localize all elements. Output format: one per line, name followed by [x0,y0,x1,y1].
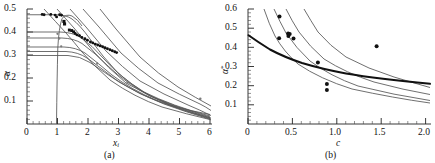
y-axis-label-b-sup: * [219,66,227,70]
y-axis-label-b-text: α [220,69,230,74]
y-tick-b-5: 0.6 [225,4,237,14]
y-tick-b-4: 0.5 [225,23,237,33]
panel-caption-a: (a) [104,151,115,161]
x-axis-label-b: c [336,139,340,149]
y-axis-label-a-text: α [2,71,12,76]
bold-curve-b [249,35,431,84]
panel-b-plot [218,0,435,163]
y-tick-a-2: 0.3 [4,50,16,60]
x-major-ticks-a [27,118,210,124]
y-axis-label-a: α [3,71,13,76]
figure-container: 0.1 0.2 0.3 0.4 0.5 0 1 2 3 4 5 6 α xi (… [0,0,435,163]
x-tick-a-0: 0 [24,128,29,138]
y-tick-b-0: 0.1 [225,100,237,110]
y-axis-label-b: α* [220,66,230,75]
x-tick-a-3: 3 [116,128,121,138]
panel-caption-b: (b) [325,151,336,161]
x-tick-a-6: 6 [207,128,212,138]
x-tick-a-1: 1 [55,128,60,138]
thin-curves-b [264,9,430,103]
x-axis-label-a: xi [113,139,119,149]
panel-a-plot [0,0,217,163]
x-tick-b-3: 1.5 [374,128,386,138]
y-tick-a-4: 0.5 [4,4,16,14]
x-tick-a-2: 2 [85,128,90,138]
x-tick-a-4: 4 [146,128,151,138]
x-tick-b-1: 0.5 [285,128,297,138]
y-tick-b-1: 0.2 [225,81,237,91]
x-axis-label-a-sub: i [117,141,119,148]
y-tick-a-3: 0.4 [4,27,16,37]
x-axis-label-b-text: c [336,138,340,148]
rising-branches-a [44,9,211,120]
y-tick-a-0: 0.1 [4,96,16,106]
x-tick-b-2: 1.0 [329,128,341,138]
y-minor-ticks-a [27,14,30,120]
x-tick-b-0: 0 [245,128,250,138]
x-tick-a-5: 5 [177,128,182,138]
axis-lines-a [27,9,212,124]
plateau-curves-a [27,15,210,119]
axis-lines-b [248,9,431,124]
x-tick-b-4: 2.0 [418,128,430,138]
panel-a: 0.1 0.2 0.3 0.4 0.5 0 1 2 3 4 5 6 α xi (… [0,0,217,163]
y-major-ticks-b [248,9,254,105]
panel-b: 0.1 0.2 0.3 0.4 0.5 0.6 0 0.5 1.0 1.5 2.… [218,0,435,163]
y-tick-b-3: 0.4 [225,43,237,53]
